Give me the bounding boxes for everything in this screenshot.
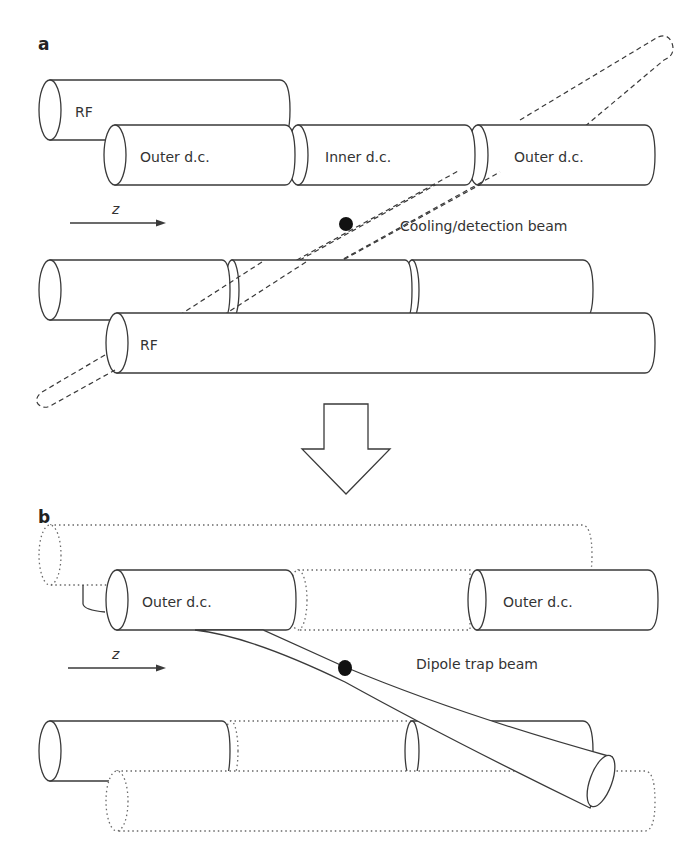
inner-dc-hidden [289, 570, 470, 630]
panel-b: b Outer d.c. Outer d.c. z [38, 507, 658, 831]
panel-b-label: b [38, 507, 50, 527]
dipole-beam-label: Dipole trap beam [416, 656, 538, 672]
bottom-rf-label: RF [140, 337, 158, 353]
outer-dc-left-label-b: Outer d.c. [142, 594, 212, 610]
bottom-dc-rods [39, 260, 593, 320]
z-axis-arrow-a: z [70, 201, 166, 227]
outer-dc-right-label-b: Outer d.c. [503, 594, 573, 610]
rf-connector [83, 585, 105, 612]
bottom-rf-rod: RF [106, 313, 655, 373]
outer-dc-right-label: Outer d.c. [514, 149, 584, 165]
panel-a: a RF Outer d.c. Inner d.c. Outer d.c. [37, 34, 673, 407]
top-dc-rods: Outer d.c. Inner d.c. Outer d.c. [104, 125, 655, 185]
ion-trap-diagram: a RF Outer d.c. Inner d.c. Outer d.c. [0, 0, 691, 849]
cooling-beam-label: Cooling/detection beam [400, 218, 567, 234]
top-rf-label: RF [75, 104, 93, 120]
panel-a-label: a [38, 34, 49, 54]
z-axis-label-b: z [111, 646, 120, 662]
cooling-beam-end [37, 355, 115, 407]
down-arrow-icon [302, 404, 390, 494]
z-axis-label: z [111, 201, 120, 217]
outer-dc-left-b: Outer d.c. [106, 570, 296, 630]
inner-dc-label: Inner d.c. [325, 149, 391, 165]
z-axis-arrow-b: z [68, 646, 166, 672]
ion-dot-b [338, 660, 352, 676]
ion-dot [339, 217, 353, 231]
outer-dc-right-b: Outer d.c. [468, 570, 658, 630]
outer-dc-left-label: Outer d.c. [140, 149, 210, 165]
